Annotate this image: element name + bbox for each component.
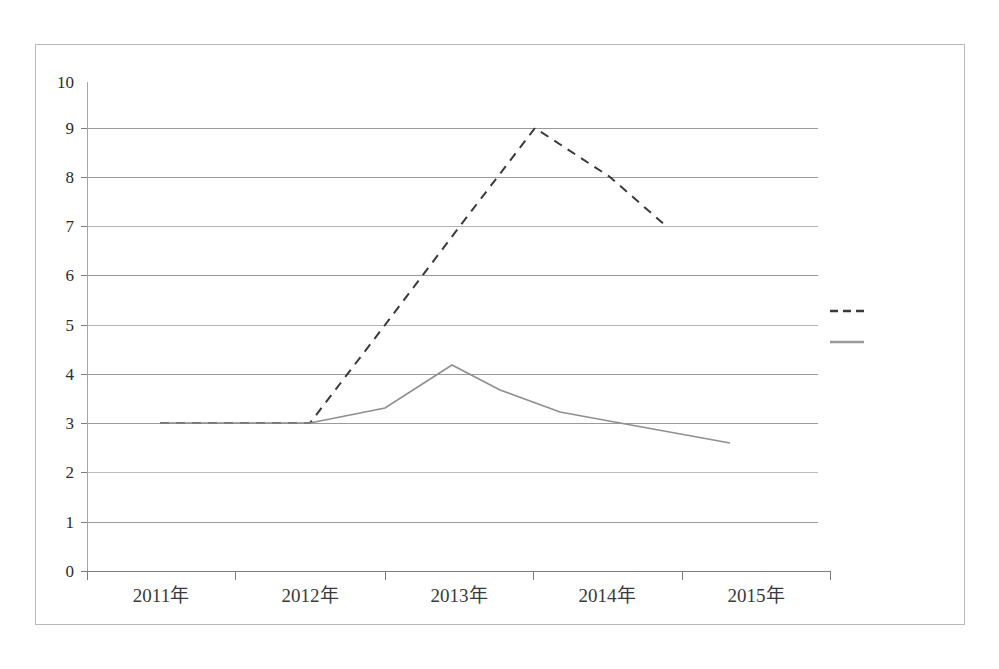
chart-canvas	[0, 0, 999, 669]
x-tick-label-2011: 2011年	[101, 586, 221, 605]
y-tick-label-0: 0	[48, 563, 74, 580]
y-tick-marks	[81, 128, 87, 571]
y-tick-label-1: 1	[48, 514, 74, 531]
x-tick-label-2014: 2014年	[547, 586, 667, 605]
y-tick-label-3: 3	[48, 415, 74, 432]
series-line-solid	[160, 365, 730, 443]
x-tick-marks	[87, 571, 830, 580]
x-tick-label-2012: 2012年	[250, 586, 370, 605]
legend	[830, 311, 864, 342]
y-tick-label-10: 10	[48, 74, 74, 91]
y-tick-label-8: 8	[48, 169, 74, 186]
y-tick-label-5: 5	[48, 317, 74, 334]
x-tick-label-2013: 2013年	[399, 586, 519, 605]
x-tick-label-2015: 2015年	[696, 586, 816, 605]
y-tick-label-7: 7	[48, 218, 74, 235]
y-tick-label-4: 4	[48, 366, 74, 383]
y-tick-label-2: 2	[48, 464, 74, 481]
line-chart: 10 9 8 7 6 5 4 3 2 1 0 2011年 2012年 2013年…	[0, 0, 999, 669]
y-tick-label-9: 9	[48, 120, 74, 137]
gridlines	[87, 128, 818, 522]
y-tick-label-6: 6	[48, 267, 74, 284]
